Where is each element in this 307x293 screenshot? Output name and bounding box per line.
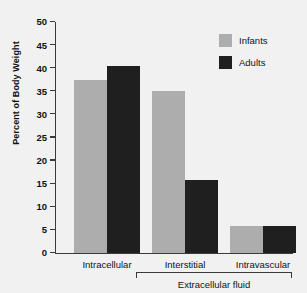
- legend-label-infants: Infants: [239, 35, 268, 46]
- legend: Infants Adults: [219, 31, 268, 75]
- bar-interstitial-adults: [185, 180, 218, 253]
- bar-chart: Percent of Body Weight 50454035302520151…: [0, 0, 307, 293]
- y-tick-label-45: 45: [36, 39, 47, 50]
- y-tick-label-35: 35: [36, 85, 47, 96]
- y-tick-label-0: 0: [42, 247, 47, 258]
- y-tick-25: 25: [50, 136, 55, 137]
- y-tick-label-50: 50: [36, 16, 47, 27]
- y-tick-label-15: 15: [36, 178, 47, 189]
- y-tick-45: 45: [50, 44, 55, 45]
- y-tick-50: 50: [50, 21, 55, 22]
- x-axis-line: [55, 253, 293, 254]
- x-label-interstitial: Interstitial: [165, 259, 206, 270]
- legend-swatch-infants: [219, 34, 232, 47]
- legend-entry-infants: Infants: [219, 31, 268, 49]
- extracellular-bracket: [136, 272, 292, 278]
- y-tick-label-5: 5: [42, 224, 47, 235]
- y-tick-10: 10: [50, 206, 55, 207]
- bar-interstitial-infants: [152, 91, 185, 253]
- bar-intravascular-adults: [263, 226, 296, 253]
- legend-entry-adults: Adults: [219, 53, 268, 71]
- y-axis-line: [55, 22, 56, 253]
- y-tick-label-10: 10: [36, 201, 47, 212]
- bar-intracellular-infants: [74, 80, 107, 253]
- y-tick-label-30: 30: [36, 108, 47, 119]
- legend-swatch-adults: [219, 56, 232, 69]
- y-tick-5: 5: [50, 229, 55, 230]
- x-label-intravascular: Intravascular: [236, 259, 290, 270]
- y-tick-label-20: 20: [36, 155, 47, 166]
- x-label-intracellular: Intracellular: [82, 259, 131, 270]
- y-tick-20: 20: [50, 159, 55, 160]
- y-tick-label-25: 25: [36, 131, 47, 142]
- y-tick-0: 0: [50, 252, 55, 253]
- y-tick-label-40: 40: [36, 62, 47, 73]
- bar-intravascular-infants: [230, 226, 263, 253]
- y-tick-30: 30: [50, 113, 55, 114]
- bar-intracellular-adults: [107, 66, 140, 253]
- y-tick-35: 35: [50, 90, 55, 91]
- legend-label-adults: Adults: [239, 57, 265, 68]
- y-axis-title: Percent of Body Weight: [11, 38, 21, 148]
- extracellular-bracket-label: Extracellular fluid: [178, 279, 250, 290]
- y-tick-15: 15: [50, 183, 55, 184]
- y-tick-40: 40: [50, 67, 55, 68]
